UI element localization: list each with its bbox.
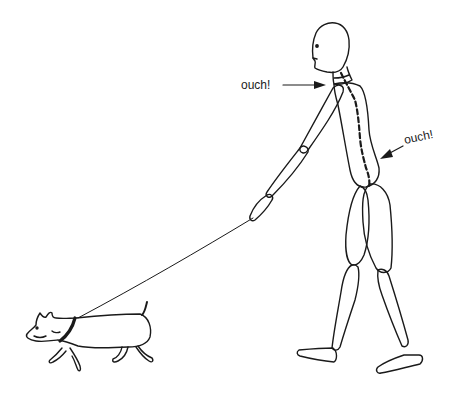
spine — [341, 73, 369, 187]
neck-pain-arrow — [283, 81, 326, 89]
illustration-canvas: ouch! ouch! — [0, 0, 461, 397]
dog-front-leg-2 — [70, 348, 80, 371]
dog-eye — [36, 327, 38, 329]
foot-front — [377, 355, 423, 373]
shin-front — [378, 269, 408, 346]
forearm — [266, 146, 308, 197]
mouth — [313, 58, 317, 59]
dog-tail — [142, 302, 147, 315]
leash — [78, 218, 253, 318]
head — [313, 23, 350, 73]
upper-arm — [300, 85, 343, 153]
dog-back-leg-2 — [136, 346, 153, 362]
neck-pain-label: ouch! — [241, 78, 270, 92]
dog-collar — [60, 318, 75, 341]
hand — [250, 194, 273, 220]
lower-back-pain-label: ouch! — [403, 127, 435, 147]
thigh-back — [346, 186, 369, 265]
mannequin-figure — [250, 23, 423, 373]
foot-back — [297, 348, 336, 362]
dog-body — [26, 312, 150, 348]
dog-front-leg-1 — [49, 348, 66, 363]
lower-back-pain-arrow — [380, 146, 403, 159]
dog-back-leg-1 — [113, 347, 128, 362]
shin-back — [332, 265, 359, 351]
eye — [316, 45, 318, 47]
